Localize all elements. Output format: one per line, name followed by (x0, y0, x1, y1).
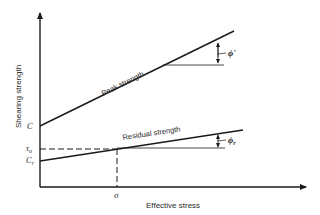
c-intercept-label: C (27, 121, 33, 131)
tau-label: τo (26, 143, 32, 154)
sigma-label: σ (114, 190, 119, 200)
x-axis-label: Effective stress (146, 201, 200, 210)
strength-envelope-diagram: Shearing strength Effective stress Peak … (0, 0, 320, 215)
peak-angle-label: ϕ' (228, 48, 236, 58)
peak-strength-label: Peak strength (100, 69, 146, 97)
cr-intercept-label: Cr (26, 155, 35, 166)
residual-angle-leader (218, 140, 226, 141)
residual-strength-label: Residual strength (122, 124, 181, 142)
residual-angle-label: ϕr (228, 135, 236, 146)
y-axis-label: Shearing strength (14, 65, 23, 128)
peak-angle-leader (218, 53, 226, 54)
